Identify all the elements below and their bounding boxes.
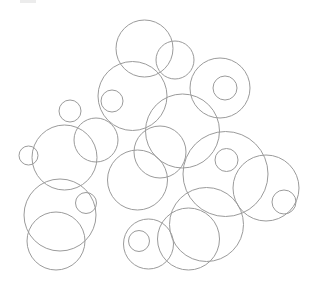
- circle-c09: [32, 125, 97, 190]
- circle-c06: [101, 90, 123, 112]
- circle-c19: [124, 219, 174, 269]
- circle-c13: [215, 149, 238, 172]
- circle-c21: [158, 208, 220, 270]
- circle-c03: [190, 58, 250, 118]
- circle-c04: [213, 76, 237, 100]
- circle-c08: [59, 100, 81, 122]
- circle-c02: [156, 41, 194, 79]
- circle-c11: [108, 150, 168, 210]
- circle-c24: [74, 118, 118, 162]
- circle-c15: [272, 190, 296, 214]
- circle-c12: [183, 132, 268, 217]
- circle-c23: [134, 126, 186, 178]
- corner-artifact-mark: [20, 0, 36, 3]
- circle-c05: [98, 62, 167, 131]
- circles-figure: [0, 0, 310, 294]
- circle-c18: [76, 193, 97, 214]
- circle-c20: [129, 231, 150, 252]
- circle-c22: [170, 188, 244, 262]
- circle-c01: [116, 20, 173, 77]
- figure-canvas: [0, 0, 310, 294]
- circle-group: [19, 20, 299, 270]
- circle-c10: [19, 146, 38, 165]
